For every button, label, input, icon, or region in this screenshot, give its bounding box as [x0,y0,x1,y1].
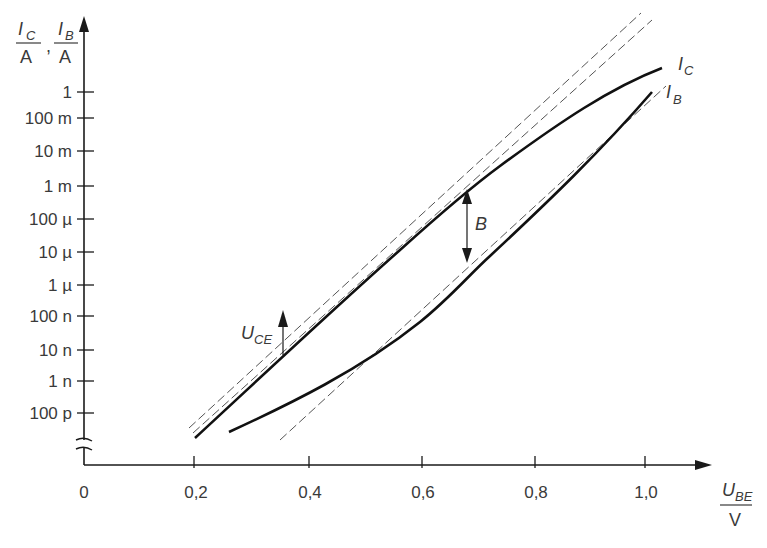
arrow-up-icon [462,189,472,204]
y-tick-label: 10 µ [39,243,73,262]
svg-text:B: B [65,28,74,43]
ic-curve [195,68,662,438]
y-tick-label: 10 n [39,341,72,360]
svg-text:C: C [26,28,36,43]
x-axis-arrow-icon [695,460,712,470]
x-tick-label: 0,2 [184,483,208,502]
x-axis-label: U BE V [720,480,753,530]
axis-break-icon [76,438,92,465]
arrow-up-icon [278,310,288,327]
arrow-down-icon [462,248,472,263]
x-tick-label: 1,0 [634,483,658,502]
y-axis-label: I C A , I B A [16,19,78,67]
x-tick-label: 0,6 [411,483,435,502]
y-axis: 1 100 m 10 m 1 m 100 µ 10 µ 1 µ 100 n 10… [16,16,94,465]
y-tick-label: 1 m [44,177,72,196]
svg-text:V: V [729,510,741,530]
svg-text:,: , [46,36,51,56]
gain-b-annotation: B [462,189,487,263]
transistor-characteristic-chart: 1 100 m 10 m 1 m 100 µ 10 µ 1 µ 100 n 10… [0,0,767,548]
y-tick-label: 100 µ [29,210,72,229]
y-tick-label: 100 m [25,109,72,128]
curve-label-ic: I C [678,54,694,78]
y-axis-arrow-icon [79,16,89,32]
svg-text:U: U [241,323,255,343]
ic-asymptote-upper [189,13,641,428]
ib-curve [229,92,652,432]
svg-text:A: A [59,47,71,67]
curve-label-ib: I B [666,82,682,107]
y-tick-label: 1 n [48,372,72,391]
uce-annotation: U CE [241,310,288,355]
svg-text:I: I [18,19,23,39]
ic-asymptote-lower [193,20,652,433]
svg-text:A: A [20,47,32,67]
svg-text:BE: BE [735,489,753,504]
y-tick-label: 1 µ [48,276,72,295]
x-tick-label: 0,8 [524,483,548,502]
x-axis: 0 0,2 0,4 0,6 0,8 1,0 U BE V [79,456,752,530]
y-tick-label: 1 [63,83,72,102]
svg-text:I: I [58,19,63,39]
y-tick-label: 100 n [29,307,72,326]
svg-text:B: B [673,92,682,107]
y-tick-label: 100 p [29,404,72,423]
svg-text:I: I [678,54,683,74]
svg-text:CE: CE [254,332,272,347]
svg-text:C: C [684,63,694,78]
svg-text:I: I [666,82,671,102]
y-tick-label: 10 m [34,142,72,161]
x-tick-label: 0 [79,483,88,502]
x-tick-label: 0,4 [298,483,322,502]
svg-text:U: U [722,480,736,500]
svg-text:B: B [475,214,487,234]
